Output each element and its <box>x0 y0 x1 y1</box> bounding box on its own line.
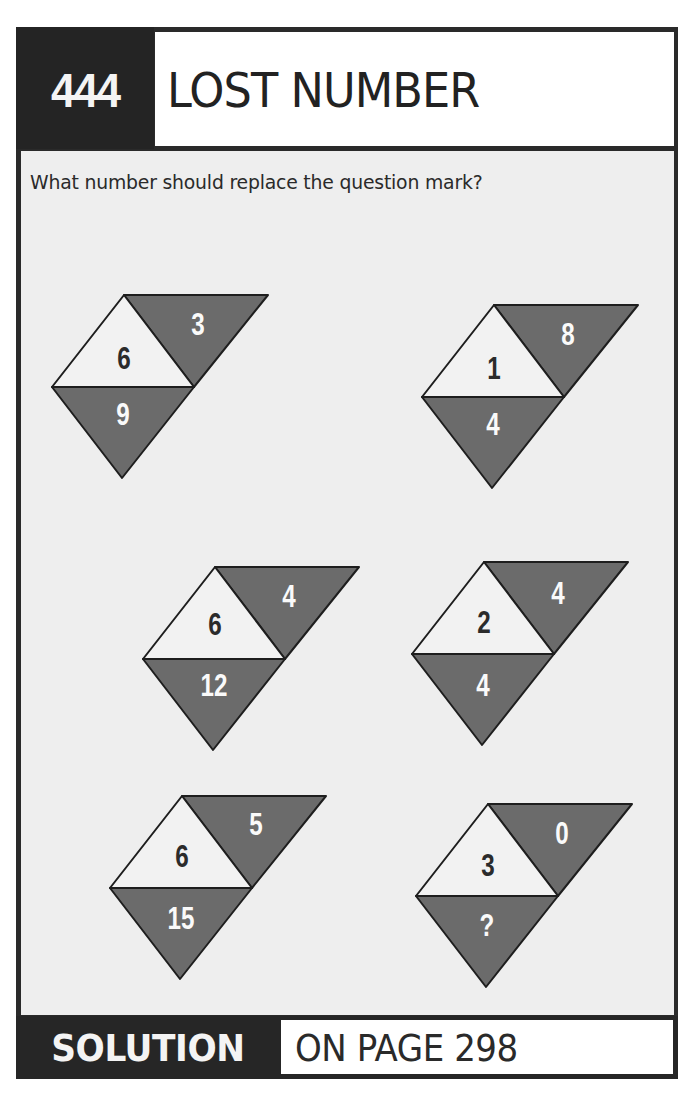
question-text: What number should replace the question … <box>30 170 482 194</box>
triangle-shape-icon <box>412 562 632 752</box>
triangle-shape-icon <box>416 804 636 994</box>
top-right-value: 0 <box>539 818 586 849</box>
center-value: 2 <box>461 607 508 638</box>
center-value: 1 <box>471 353 518 384</box>
top-right-value: 8 <box>545 319 592 350</box>
triangle-figure-5: 6 5 15 <box>110 796 330 986</box>
triangle-figure-2: 1 8 4 <box>422 305 642 495</box>
triangle-figure-3: 6 4 12 <box>143 567 363 757</box>
puzzle-title: LOST NUMBER <box>167 62 479 118</box>
triangle-figure-6: 3 0 ? <box>416 804 636 994</box>
center-value: 6 <box>159 841 206 872</box>
bottom-value: 12 <box>191 670 238 701</box>
triangle-figure-4: 2 4 4 <box>412 562 632 752</box>
center-value: 3 <box>465 850 512 881</box>
missing-value: ? <box>464 910 511 941</box>
puzzle-number-box: 444 <box>16 27 154 149</box>
bottom-value: 4 <box>460 670 507 701</box>
triangle-shape-icon <box>52 295 272 485</box>
solution-reference: ON PAGE 298 <box>295 1027 518 1070</box>
top-right-value: 3 <box>175 309 222 340</box>
center-value: 6 <box>101 343 148 374</box>
top-right-value: 5 <box>233 809 280 840</box>
solution-reference-box: ON PAGE 298 <box>281 1020 673 1074</box>
top-right-value: 4 <box>266 581 313 612</box>
bottom-value: 15 <box>158 903 205 934</box>
title-box: LOST NUMBER <box>155 32 674 146</box>
triangle-shape-icon <box>422 305 642 495</box>
puzzle-number: 444 <box>51 63 119 118</box>
triangle-shape-icon <box>110 796 330 986</box>
solution-label: SOLUTION <box>51 1027 244 1070</box>
solution-label-box: SOLUTION <box>16 1016 280 1079</box>
top-right-value: 4 <box>535 578 582 609</box>
bottom-value: 4 <box>470 409 517 440</box>
triangle-shape-icon <box>143 567 363 757</box>
bottom-value: 9 <box>100 399 147 430</box>
triangle-figure-1: 6 3 9 <box>52 295 272 485</box>
center-value: 6 <box>192 609 239 640</box>
